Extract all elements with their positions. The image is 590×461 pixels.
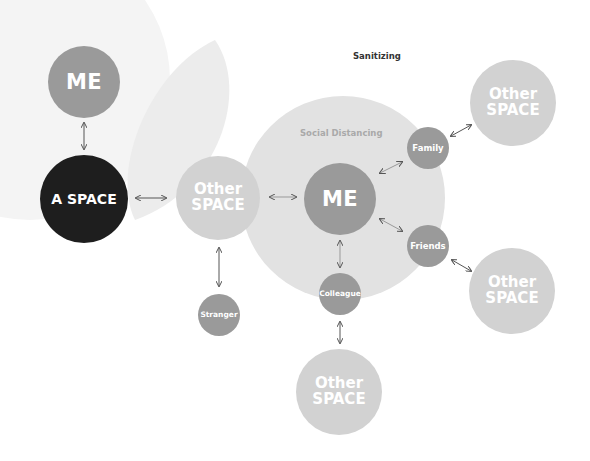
other-space-line2: SPACE — [485, 291, 538, 307]
stranger-label: Stranger — [200, 311, 237, 319]
other-space-node-4: Other SPACE — [296, 349, 382, 435]
a-space-node: A SPACE — [40, 155, 128, 243]
diagram-canvas: Sanitizing Social Distancing ME A SPACE … — [0, 0, 590, 461]
me-node-left-label: ME — [66, 71, 102, 93]
family-node: Family — [407, 127, 449, 169]
colleague-node: Colleague — [319, 273, 361, 315]
social-distancing-label: Social Distancing — [300, 128, 383, 138]
stranger-node: Stranger — [198, 294, 240, 336]
friends-node: Friends — [407, 225, 449, 267]
other-space-node-1: Other SPACE — [176, 156, 260, 240]
diagram-title: Sanitizing — [353, 51, 401, 61]
a-space-label: A SPACE — [51, 192, 116, 207]
other-space-line2: SPACE — [312, 392, 365, 408]
me-node-center: ME — [304, 163, 376, 235]
other-space-line2: SPACE — [486, 103, 539, 119]
other-space-line2: SPACE — [191, 198, 244, 214]
colleague-label: Colleague — [319, 290, 361, 298]
me-node-left: ME — [48, 46, 120, 118]
friends-label: Friends — [410, 242, 445, 251]
me-node-center-label: ME — [322, 188, 358, 210]
other-space-node-2: Other SPACE — [470, 60, 556, 146]
family-label: Family — [412, 144, 443, 153]
other-space-node-3: Other SPACE — [469, 248, 555, 334]
